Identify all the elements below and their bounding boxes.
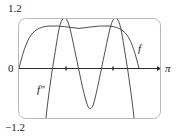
x-axis-max-label: π [165,63,171,74]
curve-label-f: f [138,43,141,54]
y-axis-min-label: −1.2 [5,122,25,133]
plot-canvas [0,0,178,138]
y-axis-max-label: 1.2 [8,3,22,14]
curve-label-f-double-prime: f″ [37,84,45,95]
graphing-calculator-plot: 1.2 −1.2 0 π f f″ [0,0,178,138]
origin-label: 0 [8,63,14,74]
